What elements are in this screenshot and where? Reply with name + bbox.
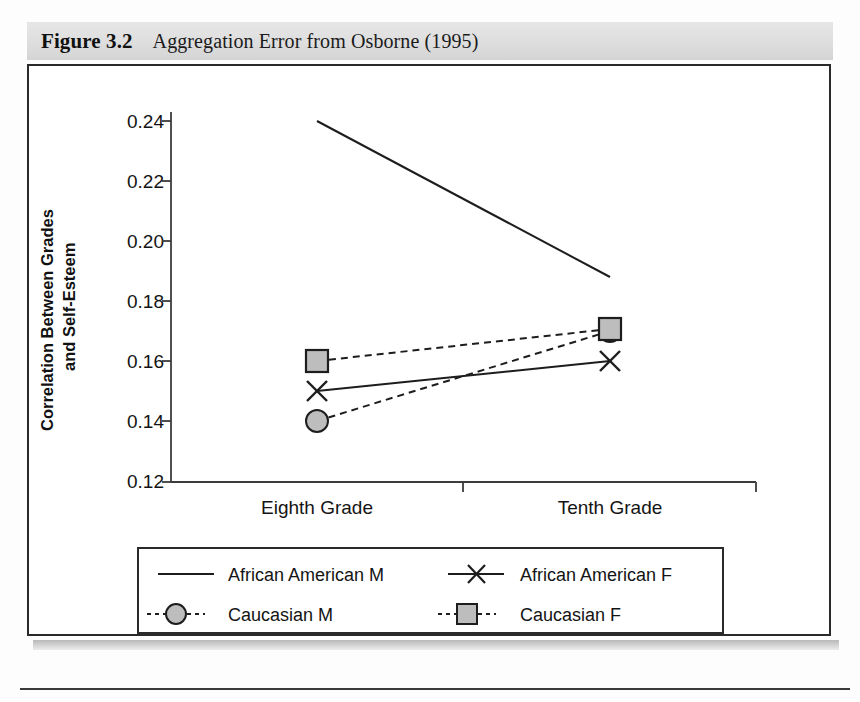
legend-marker-square-icon xyxy=(457,604,477,624)
y-tick-label: 0.22 xyxy=(127,171,164,192)
axis-lines xyxy=(162,112,756,492)
figure-number: Figure 3.2 xyxy=(41,29,133,54)
legend-label: Caucasian M xyxy=(228,605,333,625)
series-line xyxy=(317,361,610,391)
y-tick-label: 0.24 xyxy=(127,111,164,132)
y-axis-title: Correlation Between Grades and Self-Este… xyxy=(38,209,78,431)
chart-legend: African American M African American F xyxy=(138,548,723,633)
figure-title-band: Figure 3.2 Aggregation Error from Osborn… xyxy=(27,22,833,60)
y-tick-label: 0.18 xyxy=(127,291,164,312)
y-axis-title-line2: and Self-Esteem xyxy=(60,243,78,371)
y-tick-label: 0.12 xyxy=(127,471,164,492)
data-point-marker-square xyxy=(306,350,328,372)
legend-label: African American F xyxy=(520,565,672,585)
series-line xyxy=(317,121,610,277)
legend-item-caucasian-m[interactable]: Caucasian M xyxy=(147,604,333,625)
data-point-marker-circle xyxy=(306,410,328,432)
legend-marker-circle-icon xyxy=(166,604,186,624)
y-tick-label: 0.16 xyxy=(127,351,164,372)
data-point-marker-square xyxy=(599,318,621,340)
page-bottom-rule xyxy=(20,688,850,690)
legend-label: Caucasian F xyxy=(520,605,621,625)
x-tick-label: Tenth Grade xyxy=(558,497,663,518)
series-african-american-m xyxy=(317,121,610,277)
figure-caption: Aggregation Error from Osborne (1995) xyxy=(153,30,479,53)
series-line xyxy=(317,329,610,361)
chart-area: Correlation Between Grades and Self-Este… xyxy=(29,66,833,638)
legend-item-caucasian-f[interactable]: Caucasian F xyxy=(438,604,621,625)
y-axis-ticklabels: 0.24 0.22 0.20 0.18 0.16 0.14 0.12 xyxy=(127,111,164,492)
x-axis-ticklabels: Eighth Grade Tenth Grade xyxy=(261,497,662,518)
figure-drop-shadow xyxy=(33,640,839,650)
series-african-american-f xyxy=(307,351,620,401)
chart-svg: Correlation Between Grades and Self-Este… xyxy=(29,66,833,638)
legend-label: African American M xyxy=(228,565,384,585)
y-tick-label: 0.14 xyxy=(127,411,164,432)
figure-frame: Correlation Between Grades and Self-Este… xyxy=(27,64,831,636)
y-tick-label: 0.20 xyxy=(127,231,164,252)
legend-box xyxy=(138,548,723,633)
x-tick-label: Eighth Grade xyxy=(261,497,373,518)
y-axis-title-line1: Correlation Between Grades xyxy=(38,209,56,431)
figure-page: Figure 3.2 Aggregation Error from Osborn… xyxy=(0,0,860,702)
